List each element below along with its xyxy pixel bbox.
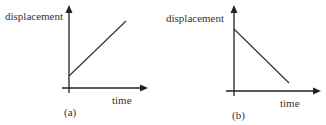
xlabel-b: time [280, 97, 300, 109]
ylabel-b: displacement [166, 12, 224, 24]
y-axis-arrow-icon [66, 5, 73, 13]
x-axis-arrow-icon [313, 88, 321, 95]
ylabel-a: displacement [5, 10, 63, 22]
data-line-a [69, 21, 126, 76]
x-axis-arrow-icon [140, 85, 148, 92]
y-axis-arrow-icon [231, 5, 238, 13]
data-line-b [234, 29, 289, 83]
caption-b: (b) [232, 109, 245, 122]
caption-a: (a) [64, 106, 77, 119]
graph-a: displacement time (a) [5, 5, 148, 119]
xlabel-a: time [112, 94, 132, 106]
figure: displacement time (a) displacement time … [0, 0, 326, 125]
graph-b: displacement time (b) [166, 5, 321, 122]
